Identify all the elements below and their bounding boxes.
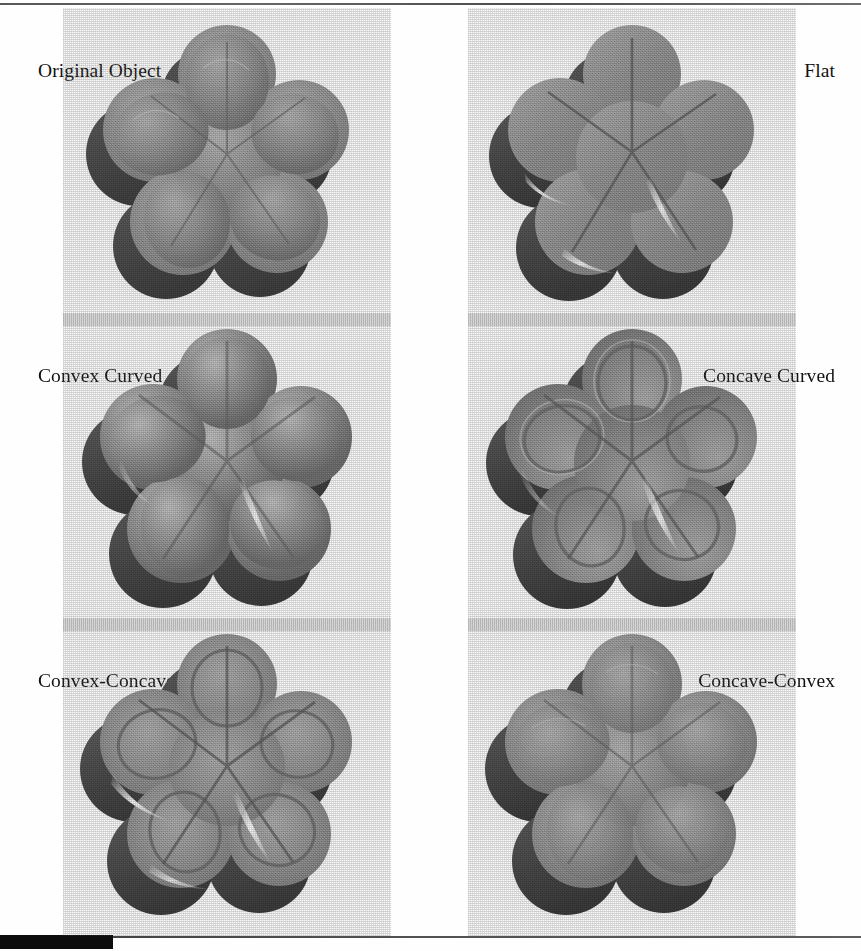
shape-top-face-flat: [508, 25, 754, 275]
shape-svg-original-object: [77, 22, 377, 312]
shape-convex-concave: [77, 632, 377, 922]
panel-convex-concave: Convex-Concave: [0, 624, 431, 929]
panel-convex-curved: Convex Curved: [0, 319, 431, 624]
shape-svg-convex-concave: [77, 632, 377, 922]
shape-convex-curved: [77, 327, 377, 617]
panel-flat: Flat: [431, 14, 861, 319]
shape-svg-flat: [482, 22, 782, 312]
shape-svg-concave-curved: [482, 327, 782, 617]
shape-top-face-concave-convex: [505, 634, 757, 888]
figure-page: Original Object: [0, 0, 861, 951]
shape-top-face-concave-curved: [505, 329, 757, 583]
panel-concave-convex: Concave-Convex: [431, 624, 861, 929]
shape-original-object: [77, 22, 377, 312]
page-rule-bottom: [0, 936, 861, 938]
shape-svg-concave-convex: [482, 632, 782, 922]
scan-artifact-block: [0, 935, 113, 949]
shape-concave-curved: [482, 327, 782, 617]
shape-concave-convex: [482, 632, 782, 922]
shape-svg-convex-curved: [77, 327, 377, 617]
panel-grid: Original Object: [0, 14, 861, 929]
shape-flat: [482, 22, 782, 312]
panel-label-flat: Flat: [804, 61, 835, 81]
shape-top-face-convex-curved: [99, 329, 352, 585]
panel-concave-curved: Concave Curved: [431, 319, 861, 624]
shape-top-face-original-object: [103, 25, 349, 275]
shape-top-face-convex-concave: [100, 634, 352, 888]
panel-original-object: Original Object: [0, 14, 431, 319]
page-rule-top: [0, 3, 861, 5]
